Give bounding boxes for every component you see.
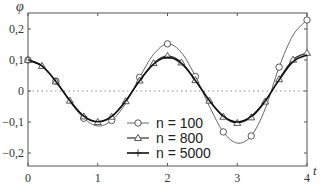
legend-item: n = 5000 [127,145,211,161]
y-axis-label: φ [16,0,24,14]
legend-label: n = 5000 [156,145,211,161]
x-tick-label: 1 [95,171,101,185]
legend-item: n = 800 [127,130,203,146]
y-tick-label: 0,1 [9,53,24,67]
x-tick-label: 4 [304,171,310,185]
x-tick-label: 3 [234,171,240,185]
x-tick-label: 2 [165,171,171,185]
legend-item: n = 100 [127,115,203,131]
y-tick-label: 0,2 [9,22,24,36]
y-tick-label: 0 [18,84,24,98]
legend-label: n = 800 [156,130,203,146]
x-tick-label: 0 [25,171,31,185]
x-axis-label: t [313,163,317,178]
legend: n = 100n = 800n = 5000 [127,115,211,161]
y-tick-label: −0,1 [2,115,24,129]
legend-label: n = 100 [156,115,203,131]
chart: 01234 0,20,10−0,1−0,2 φ t n = 100n = 800… [0,0,321,187]
series-n5000 [28,55,307,122]
y-tick-label: −0,2 [2,146,24,160]
